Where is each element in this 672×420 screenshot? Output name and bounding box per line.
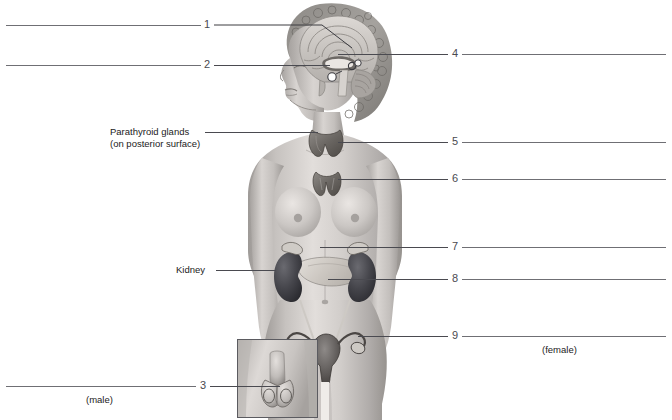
answer-number-4: 4 — [452, 48, 458, 59]
kidney-leader-line — [216, 270, 276, 271]
answer-line-4[interactable] — [462, 54, 666, 55]
parathyroid-label-line2: (on posterior surface) — [110, 138, 200, 150]
pineal-gland-marker — [355, 60, 361, 66]
answer-number-7: 7 — [452, 241, 458, 252]
answer-line-3[interactable] — [6, 386, 196, 387]
answer-line-9[interactable] — [462, 336, 666, 337]
leader-1-pointer — [214, 18, 354, 68]
answer-number-8: 8 — [452, 273, 458, 284]
leader-3-pointer — [210, 386, 280, 387]
leader-7-pointer — [320, 247, 448, 248]
answer-line-6[interactable] — [462, 179, 666, 180]
male-annotation: (male) — [86, 394, 113, 405]
kidney-label: Kidney — [176, 264, 205, 276]
leader-2-pointer — [214, 65, 330, 66]
parathyroid-leader-line — [205, 132, 318, 133]
endocrine-labeling-diagram: 1 2 Parathyroid glands (on posterior sur… — [0, 0, 672, 420]
answer-number-2: 2 — [204, 59, 210, 70]
leader-9-pointer — [358, 336, 448, 337]
answer-line-5[interactable] — [462, 142, 666, 143]
answer-number-1: 1 — [204, 19, 210, 30]
leader-5-pointer — [338, 142, 448, 143]
answer-line-8[interactable] — [462, 279, 666, 280]
leader-4-pointer — [338, 54, 448, 55]
female-annotation: (female) — [542, 344, 577, 355]
parathyroid-label-line1: Parathyroid glands — [110, 126, 189, 138]
male-testes-inset — [237, 339, 318, 418]
answer-number-5: 5 — [452, 136, 458, 147]
leader-8-pointer — [328, 279, 448, 280]
pituitary-gland-marker — [328, 73, 336, 81]
answer-number-6: 6 — [452, 173, 458, 184]
leader-6-pointer — [338, 179, 448, 180]
answer-line-1[interactable] — [6, 25, 201, 26]
answer-number-3: 3 — [200, 380, 206, 391]
answer-number-9: 9 — [452, 330, 458, 341]
answer-line-7[interactable] — [462, 247, 666, 248]
answer-line-2[interactable] — [6, 65, 201, 66]
